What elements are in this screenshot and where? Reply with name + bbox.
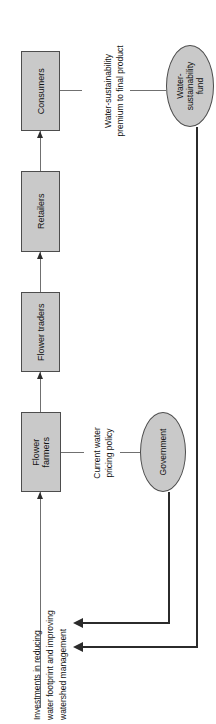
connector-consumers-to-premium-label [60,90,82,91]
node-consumers[interactable]: Consumers [21,51,60,131]
pricing-label-line1: Current water [92,427,102,479]
premium-label-line2: premium to final product [115,45,125,136]
node-retailers[interactable]: Retailers [21,171,60,252]
edge-label-current-water-pricing-policy: Current water pricing policy [91,423,113,483]
arrowhead-into-consumers [37,131,43,138]
connector-government-feedback-vertical [168,492,170,624]
connector-government-feedback-horizontal [83,622,169,624]
node-flower-traders[interactable]: Flower traders [21,292,60,372]
node-flower-farmers[interactable]: Flower farmers [21,412,61,492]
node-government[interactable]: Government [140,412,186,492]
node-retailers-label: Retailers [35,194,45,230]
connector-premium-label-to-fund [130,90,166,91]
arrowhead-into-flower-traders [37,372,43,379]
edge-label-water-sustainability-premium: Water-sustainability premium to final pr… [102,31,124,151]
fund-label-line3: fund [195,78,205,95]
investments-label-line3: watershed management [58,629,68,720]
node-government-label: Government [158,429,168,476]
diagram-canvas: Consumers Retailers Flower traders Flowe… [0,0,216,724]
investments-label-line2: water footprint and improving [45,610,55,720]
arrowhead-into-flower-farmers [37,492,43,499]
connector-farmers-to-pricing-label [61,452,84,453]
pricing-label-line2: pricing policy [104,428,114,477]
connector-pricing-label-to-government [120,452,140,453]
node-flower-farmers-label: Flower farmers [31,437,52,468]
investments-label-line1: Investments in reducing [32,630,42,720]
fund-label-line1: Water- [175,73,185,98]
arrowhead-into-retailers [37,252,43,259]
node-flower-farmers-label-line1: Flower [31,438,41,465]
node-water-sustainability-fund[interactable]: Water- sustainability fund [166,45,214,127]
connector-fund-feedback-horizontal [83,646,197,648]
premium-label-line1: Water-sustainability [103,54,113,128]
arrowhead-government-investments [73,618,83,628]
node-water-sustainability-fund-label: Water- sustainability fund [175,62,205,111]
node-consumers-label: Consumers [35,68,45,114]
arrowhead-fund-investments [73,642,83,652]
node-flower-farmers-label-line2: farmers [41,437,51,468]
node-flower-traders-label: Flower traders [35,303,45,361]
edge-label-investments: Investments in reducing water footprint … [31,554,71,720]
fund-label-line2: sustainability [185,62,195,111]
connector-fund-feedback-vertical [196,127,198,648]
